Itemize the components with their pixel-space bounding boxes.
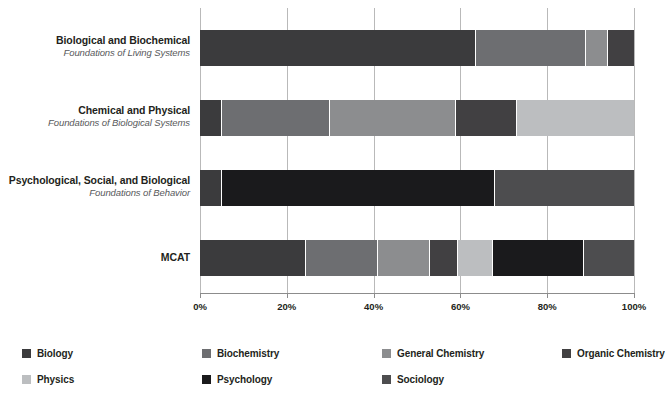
legend-label: Psychology (217, 374, 272, 385)
bar-segment-organic-chemistry[interactable] (456, 100, 517, 136)
bar-segment-biology[interactable] (200, 100, 222, 136)
legend-label: Physics (37, 374, 74, 385)
x-tick-mark (547, 293, 548, 298)
legend-item-physics[interactable]: Physics (22, 374, 74, 385)
category-label-title: Psychological, Social, and Biological (0, 174, 190, 187)
legend-swatch-icon (562, 349, 571, 358)
category-label-title: Biological and Biochemical (0, 34, 190, 47)
bar-track (200, 240, 634, 276)
x-axis-line (200, 293, 634, 294)
bar-segment-biochemistry[interactable] (306, 240, 378, 276)
x-tick-label: 80% (538, 301, 557, 312)
bar-row (200, 240, 634, 276)
legend-item-biochemistry[interactable]: Biochemistry (202, 348, 279, 359)
category-label-subtitle: Foundations of Biological Systems (0, 117, 190, 129)
bar-segment-sociology[interactable] (584, 240, 634, 276)
x-tick-label: 20% (277, 301, 296, 312)
category-label: MCAT (0, 251, 190, 264)
bar-track (200, 170, 634, 206)
bar-segment-general-chemistry[interactable] (586, 30, 608, 66)
gridline-100 (634, 8, 635, 293)
bar-segment-biochemistry[interactable] (222, 100, 331, 136)
x-tick-label: 100% (622, 301, 646, 312)
legend-swatch-icon (202, 375, 211, 384)
x-tick-mark (200, 293, 201, 298)
category-label-title: MCAT (0, 251, 190, 264)
category-label: Biological and BiochemicalFoundations of… (0, 34, 190, 59)
bars-layer (200, 8, 634, 293)
legend-item-organic-chemistry[interactable]: Organic Chemistry (562, 348, 665, 359)
bar-segment-biology[interactable] (200, 30, 476, 66)
legend: BiologyBiochemistryGeneral ChemistryOrga… (22, 348, 632, 398)
category-label: Psychological, Social, and BiologicalFou… (0, 174, 190, 199)
legend-swatch-icon (382, 375, 391, 384)
legend-label: Sociology (397, 374, 444, 385)
category-label-subtitle: Foundations of Living Systems (0, 47, 190, 59)
bar-segment-biology[interactable] (200, 170, 222, 206)
category-label-subtitle: Foundations of Behavior (0, 187, 190, 199)
legend-label: Biology (37, 348, 73, 359)
x-tick-mark (374, 293, 375, 298)
legend-item-biology[interactable]: Biology (22, 348, 73, 359)
bar-segment-biology[interactable] (200, 240, 306, 276)
legend-label: Biochemistry (217, 348, 279, 359)
category-label: Chemical and PhysicalFoundations of Biol… (0, 104, 190, 129)
x-tick-label: 0% (193, 301, 207, 312)
x-tick-label: 60% (451, 301, 470, 312)
legend-item-general-chemistry[interactable]: General Chemistry (382, 348, 484, 359)
x-tick-mark (287, 293, 288, 298)
bar-segment-general-chemistry[interactable] (330, 100, 456, 136)
plot-area (200, 8, 634, 293)
x-tick-label: 40% (364, 301, 383, 312)
bar-segment-psychology[interactable] (222, 170, 495, 206)
bar-row (200, 170, 634, 206)
bar-track (200, 100, 634, 136)
bar-segment-sociology[interactable] (495, 170, 634, 206)
bar-track (200, 30, 634, 66)
x-tick-mark (460, 293, 461, 298)
bar-segment-organic-chemistry[interactable] (430, 240, 458, 276)
legend-swatch-icon (202, 349, 211, 358)
bar-row (200, 100, 634, 136)
x-axis: 0%20%40%60%80%100% (200, 293, 634, 319)
bar-segment-physics[interactable] (517, 100, 634, 136)
bar-segment-organic-chemistry[interactable] (608, 30, 634, 66)
bar-segment-biochemistry[interactable] (476, 30, 587, 66)
x-tick-mark (634, 293, 635, 298)
legend-swatch-icon (22, 375, 31, 384)
legend-label: Organic Chemistry (577, 348, 665, 359)
legend-swatch-icon (22, 349, 31, 358)
legend-item-psychology[interactable]: Psychology (202, 374, 272, 385)
legend-swatch-icon (382, 349, 391, 358)
bar-segment-physics[interactable] (458, 240, 493, 276)
legend-item-sociology[interactable]: Sociology (382, 374, 444, 385)
category-label-title: Chemical and Physical (0, 104, 190, 117)
legend-label: General Chemistry (397, 348, 484, 359)
bar-row (200, 30, 634, 66)
bar-segment-general-chemistry[interactable] (378, 240, 430, 276)
bar-segment-psychology[interactable] (493, 240, 584, 276)
